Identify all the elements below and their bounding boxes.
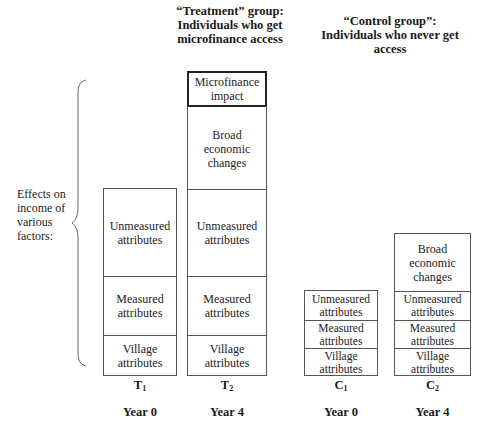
control-heading-line: “Control group”: [310, 14, 470, 28]
segment-unmeasured-attributes: Unmeasured attributes [188, 189, 266, 276]
column-label-c1: C1 [304, 378, 378, 393]
year-label-t2: Year 4 [187, 405, 267, 420]
segment-microfinance-impact: Microfinance impact [187, 71, 267, 107]
segment-village-attributes: Village attributes [188, 335, 266, 376]
treatment-heading-line: “Treatment” group: [160, 4, 300, 18]
column-label-t2: T2 [187, 378, 267, 393]
column-label-c2: C2 [394, 378, 471, 393]
treatment-heading-line: microfinance access [160, 32, 300, 46]
control-group-heading: “Control group”: Individuals who never g… [310, 14, 470, 56]
segment-label: economic [409, 256, 456, 270]
segment-label: attributes [411, 335, 454, 348]
segment-label: Broad [212, 128, 241, 142]
year-label-c2: Year 4 [394, 405, 471, 420]
stack-c2: Broad economic changes Unmeasured attrib… [394, 233, 471, 376]
segment-label: Village [416, 350, 449, 363]
segment-broad-economic-changes: Broad economic changes [395, 234, 470, 291]
segment-label: attributes [118, 356, 163, 370]
segment-village-attributes: Village attributes [395, 348, 470, 376]
column-subscript: 1 [142, 384, 146, 393]
control-heading-line: access [310, 42, 470, 56]
column-subscript: 2 [435, 384, 439, 393]
segment-village-attributes: Village attributes [305, 348, 377, 376]
segment-label: attributes [118, 306, 163, 320]
stack-t2: Microfinance impact Broad economic chang… [187, 71, 267, 376]
segment-label: Unmeasured [403, 293, 461, 306]
segment-measured-attributes: Measured attributes [395, 320, 470, 348]
segment-measured-attributes: Measured attributes [305, 320, 377, 348]
segment-label: attributes [205, 233, 250, 247]
segment-label: impact [211, 89, 244, 103]
segment-label: attributes [118, 233, 163, 247]
segment-label: changes [208, 156, 247, 170]
segment-label: Measured [318, 322, 363, 335]
control-heading-line: Individuals who never get [310, 28, 470, 42]
segment-label: Village [123, 342, 158, 356]
column-letter: T [221, 378, 229, 392]
segment-label: Village [210, 342, 245, 356]
segment-label: attributes [411, 306, 454, 319]
segment-unmeasured-attributes: Unmeasured attributes [305, 291, 377, 320]
segment-unmeasured-attributes: Unmeasured attributes [395, 291, 470, 320]
segment-label: Measured [410, 322, 455, 335]
segment-label: economic [204, 142, 251, 156]
segment-label: changes [413, 270, 452, 284]
treatment-group-heading: “Treatment” group: Individuals who get m… [160, 4, 300, 46]
stack-c1: Unmeasured attributes Measured attribute… [304, 290, 378, 376]
segment-label: Broad [418, 242, 447, 256]
segment-label: Unmeasured [197, 219, 258, 233]
segment-label: Unmeasured [312, 293, 370, 306]
treatment-heading-line: Individuals who get [160, 18, 300, 32]
segment-label: attributes [411, 363, 454, 376]
segment-measured-attributes: Measured attributes [188, 276, 266, 335]
column-subscript: 2 [229, 384, 233, 393]
stack-t1: Unmeasured attributes Measured attribute… [103, 188, 177, 376]
segment-label: attributes [320, 363, 363, 376]
segment-label: Unmeasured [110, 219, 171, 233]
segment-label: Measured [116, 292, 163, 306]
segment-label: attributes [205, 356, 250, 370]
segment-label: Village [324, 350, 357, 363]
segment-unmeasured-attributes: Unmeasured attributes [104, 189, 176, 276]
year-label-t1: Year 0 [103, 405, 177, 420]
column-letter: T [134, 378, 142, 392]
segment-label: Measured [203, 292, 250, 306]
segment-broad-economic-changes: Broad economic changes [188, 107, 266, 190]
column-subscript: 1 [344, 384, 348, 393]
segment-label: attributes [205, 306, 250, 320]
segment-label: attributes [320, 335, 363, 348]
segment-measured-attributes: Measured attributes [104, 276, 176, 335]
segment-label: Microfinance [195, 75, 260, 89]
segment-village-attributes: Village attributes [104, 335, 176, 376]
column-letter: C [426, 378, 435, 392]
column-letter: C [334, 378, 343, 392]
segment-label: attributes [320, 306, 363, 319]
curly-brace-icon [70, 78, 90, 368]
year-label-c1: Year 0 [304, 405, 378, 420]
column-label-t1: T1 [103, 378, 177, 393]
